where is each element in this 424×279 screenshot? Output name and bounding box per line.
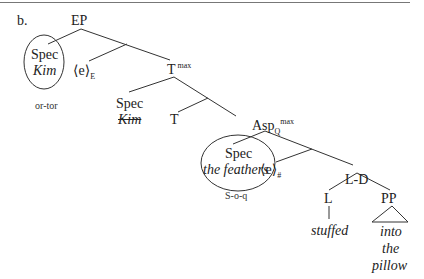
node-spec1-label: Spec: [31, 47, 58, 62]
spec3-annotation: S-o-q: [225, 190, 247, 201]
node-asp-max: AspQmax: [252, 118, 294, 133]
node-pp: PP: [381, 191, 397, 206]
node-l: L: [324, 191, 333, 206]
node-tmax: Tmax: [167, 62, 191, 77]
tree-branches: [0, 0, 424, 279]
node-e-hash: ⟨e⟩#: [260, 162, 281, 177]
pp-word-the: the: [382, 241, 399, 256]
node-e-E: ⟨e⟩E: [73, 63, 95, 78]
node-t: T: [170, 112, 179, 127]
example-label: b.: [17, 13, 28, 28]
node-ep: EP: [71, 13, 87, 28]
node-spec2-label: Spec: [116, 96, 143, 111]
spec-kim-ellipse: [24, 35, 64, 89]
pp-word-into: into: [380, 224, 402, 239]
node-spec3-label: Spec: [225, 146, 252, 161]
node-ld: L-D: [345, 172, 368, 187]
node-spec3-word: the feathers: [203, 162, 269, 177]
word-stuffed: stuffed: [311, 223, 348, 238]
pp-word-pillow: pillow: [372, 258, 407, 273]
node-spec1-word: Kim: [33, 63, 56, 78]
node-spec2-word: Kim: [118, 112, 141, 127]
spec1-annotation: or-tor: [35, 100, 58, 111]
